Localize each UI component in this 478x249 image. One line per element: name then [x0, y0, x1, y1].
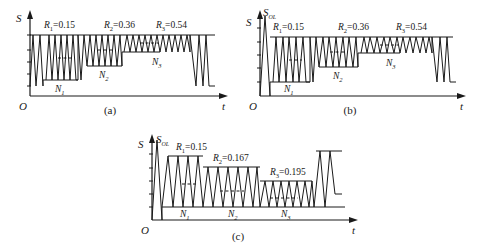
- panel-b-n2-sub: 2: [339, 76, 343, 83]
- panel-c-x-axis-label: t: [352, 224, 356, 236]
- panel-b-n-label-3: N3: [385, 58, 396, 70]
- panel-a-n2-sub: 2: [105, 75, 109, 82]
- panel-c-r1-value: =0.15: [185, 142, 207, 152]
- panel-a-n1-sub: 1: [61, 89, 64, 96]
- panel-a-svg: S t O R1=0.15 R2=0.36 R3=0.54: [0, 0, 238, 125]
- panel-b-n3-sub: 3: [391, 63, 396, 70]
- panel-b-r-label-3: R3=0.54: [395, 22, 427, 34]
- panel-a-r2-value: =0.36: [113, 20, 135, 30]
- panel-b-origin-label: O: [249, 100, 257, 112]
- panel-a-origin-label: O: [19, 100, 27, 112]
- panel-a-r-label-2: R2=0.36: [103, 20, 135, 32]
- panel-b-r-label-1: R1=0.15: [272, 22, 304, 34]
- panel-a-r1-value: =0.15: [53, 20, 75, 30]
- panel-c-r2-value: =0.167: [222, 153, 249, 163]
- panel-b-overload-spike: [260, 16, 270, 96]
- panel-c-r-label-3: R3=0.195: [269, 167, 306, 179]
- svg-text:R2=0.36: R2=0.36: [337, 22, 369, 34]
- panel-a-y-axis-label: S: [16, 12, 22, 24]
- svg-text:N2: N2: [227, 209, 238, 221]
- panel-a-n3-sub: 3: [157, 62, 162, 69]
- panel-a-x-axis-label: t: [222, 100, 226, 112]
- panel-a-r-label-1: R1=0.15: [43, 20, 75, 32]
- panel-a-r3-value: =0.54: [165, 20, 187, 30]
- panel-c-caption: (c): [232, 230, 245, 243]
- panel-c-n1-sub: 1: [186, 214, 189, 221]
- panel-b-svg: S SOL t O R1=0.15 R2=0.36 R3=0.54: [238, 0, 478, 125]
- panel-a-waveform: [30, 35, 215, 86]
- svg-text:N1: N1: [54, 84, 65, 96]
- panel-c-overload-spike: [152, 140, 162, 220]
- panel-b-caption: (b): [344, 104, 357, 117]
- panel-b-n-label-2: N2: [332, 71, 343, 83]
- panel-c-n-label-3: N3: [280, 209, 291, 221]
- svg-text:N2: N2: [98, 70, 109, 82]
- panel-c-sol-sub: OL: [162, 141, 170, 147]
- svg-text:R3=0.195: R3=0.195: [269, 167, 306, 179]
- svg-text:N2: N2: [332, 71, 343, 83]
- panel-b-y-axis-label: S: [246, 16, 252, 28]
- panel-c-waveform: [162, 151, 342, 207]
- panel-c-origin-label: O: [141, 224, 149, 236]
- figure-root: S t O R1=0.15 R2=0.36 R3=0.54: [0, 0, 478, 249]
- panel-b-n1-sub: 1: [290, 89, 293, 96]
- svg-text:R1=0.15: R1=0.15: [272, 22, 304, 34]
- svg-text:R2=0.36: R2=0.36: [103, 20, 135, 32]
- svg-text:R1=0.15: R1=0.15: [43, 20, 75, 32]
- panel-b-overload-label: SOL: [263, 6, 277, 20]
- svg-text:R2=0.167: R2=0.167: [212, 153, 249, 165]
- svg-text:R1=0.15: R1=0.15: [175, 142, 207, 154]
- panel-b-y-axis: [257, 10, 263, 96]
- panel-c-n-label-2: N2: [227, 209, 238, 221]
- panel-b-r-label-2: R2=0.36: [337, 22, 369, 34]
- panel-b-x-axis-label: t: [460, 100, 464, 112]
- svg-text:R3=0.54: R3=0.54: [395, 22, 427, 34]
- svg-text:N3: N3: [385, 58, 396, 70]
- panel-a-r-label-3: R3=0.54: [155, 20, 187, 32]
- panel-a: S t O R1=0.15 R2=0.36 R3=0.54: [0, 0, 238, 125]
- panel-b-waveform: [270, 37, 456, 96]
- panel-c-overload-label: SOL: [156, 133, 170, 147]
- panel-a-n-label-1: N1: [54, 84, 65, 96]
- panel-a-n-label-2: N2: [98, 70, 109, 82]
- panel-c: S SOL t O R1=0.15 R2=0.167 R3=0.195: [120, 124, 370, 249]
- panel-b-n-label-1: N1: [283, 84, 294, 96]
- panel-c-r-label-2: R2=0.167: [212, 153, 249, 165]
- svg-text:N1: N1: [283, 84, 294, 96]
- svg-text:R3=0.54: R3=0.54: [155, 20, 187, 32]
- panel-c-n-label-1: N1: [179, 209, 190, 221]
- panel-c-r-label-1: R1=0.15: [175, 142, 207, 154]
- panel-a-caption: (a): [104, 104, 117, 117]
- svg-text:SOL: SOL: [263, 6, 277, 20]
- panel-b: S SOL t O R1=0.15 R2=0.36 R3=0.54: [238, 0, 478, 125]
- svg-text:N3: N3: [280, 209, 291, 221]
- svg-text:N3: N3: [151, 57, 162, 69]
- svg-text:N1: N1: [179, 209, 190, 221]
- panel-b-r3-value: =0.54: [405, 22, 427, 32]
- panel-a-n-label-3: N3: [151, 57, 162, 69]
- panel-c-svg: S SOL t O R1=0.15 R2=0.167 R3=0.195: [120, 124, 370, 249]
- panel-c-r3-value: =0.195: [279, 167, 306, 177]
- svg-text:SOL: SOL: [156, 133, 170, 147]
- panel-b-r1-value: =0.15: [282, 22, 304, 32]
- panel-c-y-axis-label: S: [138, 138, 144, 150]
- panel-b-r2-value: =0.36: [347, 22, 369, 32]
- panel-b-sol-sub: OL: [269, 14, 277, 20]
